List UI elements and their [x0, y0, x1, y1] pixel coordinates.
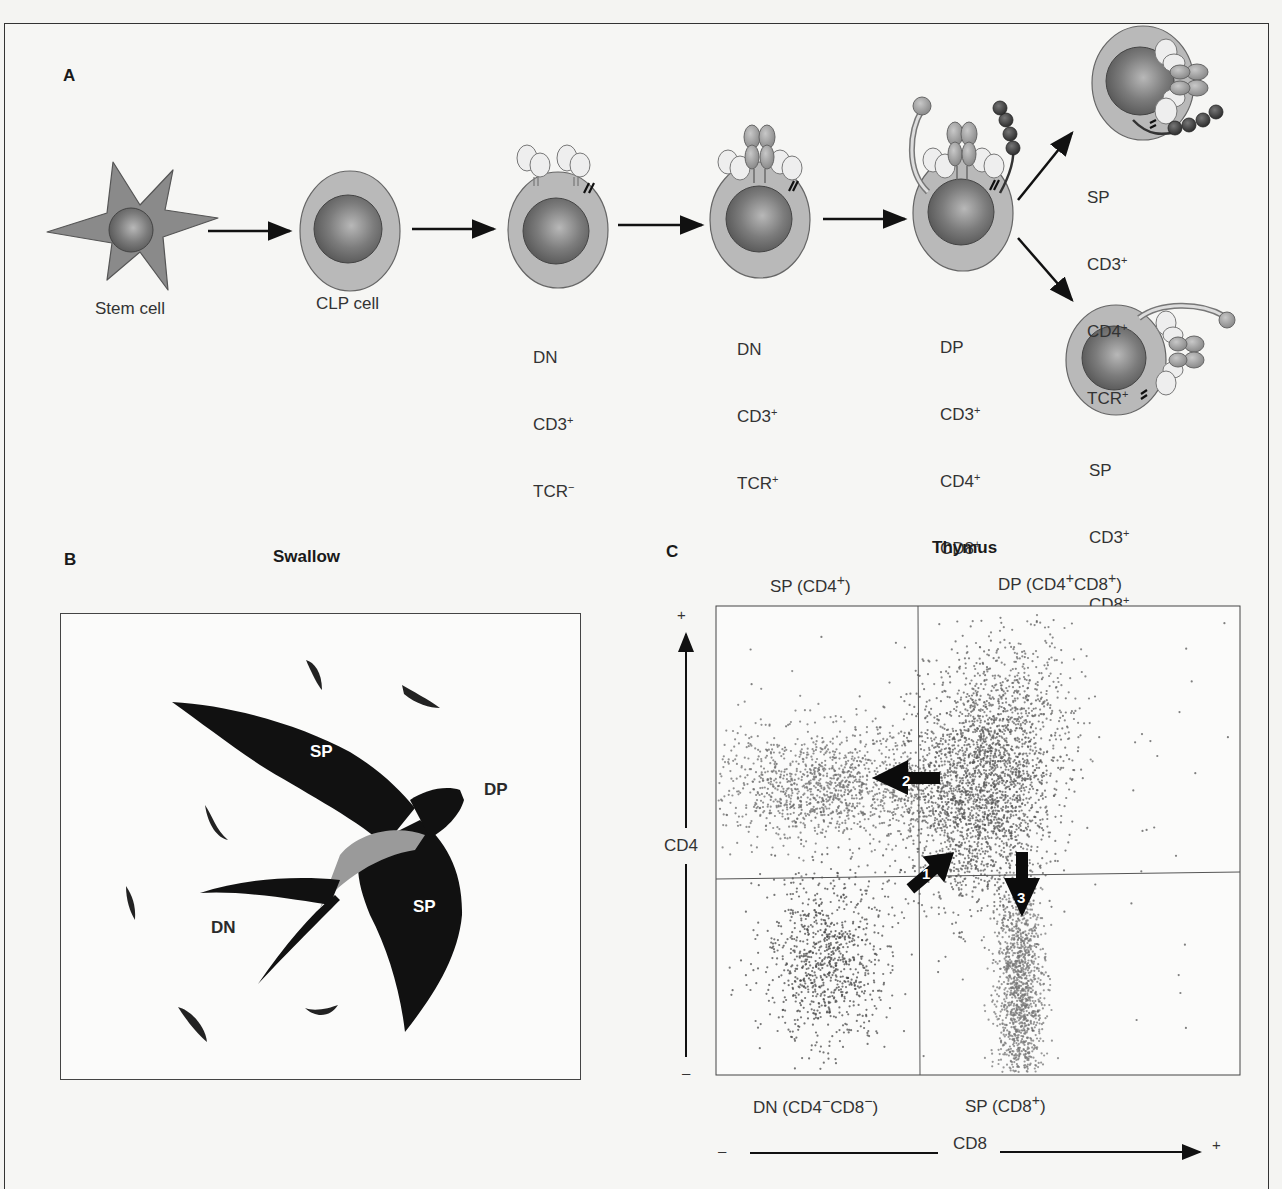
svg-text:2: 2 — [902, 772, 910, 789]
svg-text:1: 1 — [922, 865, 930, 882]
svg-text:3: 3 — [1017, 889, 1025, 906]
plot-area — [716, 606, 1240, 1075]
flow-cytometry-plot: 2 1 3 — [0, 0, 1282, 1189]
